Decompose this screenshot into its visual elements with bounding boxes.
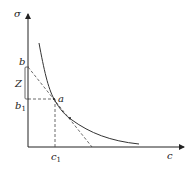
point-a-dot	[53, 98, 55, 100]
diagram-canvas: σ c b Z b1 a c1	[0, 0, 194, 173]
c1-subscript: 1	[57, 156, 61, 164]
indifference-curve	[39, 43, 139, 144]
z-label: Z	[14, 78, 23, 89]
point-a-label: a	[58, 93, 64, 104]
b1-subscript: 1	[21, 105, 25, 113]
x-axis-label: c	[167, 150, 173, 161]
point-b-label: b	[19, 56, 25, 67]
tangent-line	[28, 67, 92, 147]
point-c1-label: c1	[51, 151, 61, 164]
point-b1-label: b1	[15, 100, 26, 113]
y-axis-label: σ	[14, 8, 22, 19]
tangent-point-dot	[69, 117, 71, 119]
